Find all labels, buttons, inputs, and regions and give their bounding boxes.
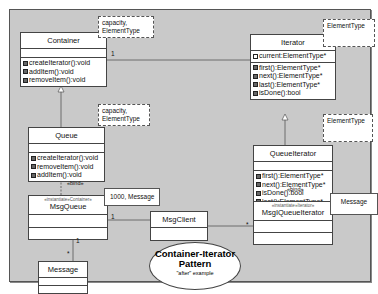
class-name: MsgQueue [50, 202, 87, 211]
class-name: Queue [29, 128, 104, 144]
method-icon [31, 156, 36, 161]
method-icon [256, 174, 261, 179]
bind-params-msgiterator: Message [330, 193, 378, 215]
attributes-section [151, 228, 207, 240]
attributes-section [29, 215, 107, 228]
diagram-canvas: Container createIterator():void addItem(… [9, 9, 371, 282]
operations-section: createIterator():void addItem():void rem… [21, 58, 106, 86]
operation: addItem():void [31, 171, 102, 180]
operations-section [39, 286, 87, 293]
operations-section: first():ElementType* next():ElementType*… [251, 63, 335, 99]
method-icon [256, 182, 261, 187]
class-name: MsgClient [151, 212, 207, 228]
template-params-queue: capacity, ElementType [98, 104, 150, 126]
class-name: MsgIQueueIterator [262, 208, 325, 217]
operations-section [254, 233, 332, 244]
attributes-section: current:ElementType* [251, 51, 335, 63]
operation: removeItem():void [23, 76, 104, 85]
method-icon [31, 173, 36, 178]
operation: first():ElementType* [253, 64, 333, 73]
bind-label-msgiterator: «bind» [287, 186, 304, 192]
method-icon [256, 191, 261, 196]
operations-section: createIterator():void removeItem():void … [29, 153, 104, 181]
class-msg-queue-iterator[interactable]: «instantiate»Iterator» MsgIQueueIterator [253, 201, 333, 245]
attribute: current:ElementType* [253, 52, 333, 61]
subtitle: "after" example [150, 270, 240, 276]
operation: first():ElementType* [256, 172, 330, 181]
class-msg-queue[interactable]: «instantiate»Container» MsgQueue [28, 195, 108, 240]
operation: createIterator():void [31, 154, 102, 163]
operation: addItem():void [23, 68, 104, 77]
method-icon [253, 65, 258, 70]
method-icon [253, 82, 258, 87]
operation: createIterator():void [23, 59, 104, 68]
attributes-section [254, 162, 332, 171]
operation: isDone():bool [253, 89, 333, 98]
operation: next():ElementType* [253, 72, 333, 81]
multiplicity-label: 1 [76, 237, 80, 244]
multiplicity-label: 1 [111, 213, 115, 220]
template-params-iterator: ElementType [323, 19, 375, 47]
attributes-section [21, 49, 106, 58]
class-queue-iterator[interactable]: QueueIterator first():ElementType* next(… [253, 145, 333, 208]
template-params-container: capacity, ElementType [98, 16, 154, 38]
multiplicity-label: * [246, 221, 249, 228]
multiplicity-label: * [67, 250, 70, 257]
class-name-block: «instantiate»Container» MsgQueue [29, 196, 107, 215]
class-container[interactable]: Container createIterator():void addItem(… [20, 32, 107, 87]
attributes-section [29, 144, 104, 153]
operation: removeItem():void [31, 163, 102, 172]
operations-section [29, 228, 107, 239]
multiplicity-label: 1 [111, 50, 115, 57]
class-msg-client[interactable]: MsgClient [150, 211, 208, 241]
method-icon [23, 61, 28, 66]
method-icon [23, 69, 28, 74]
method-icon [253, 74, 258, 79]
method-icon [253, 91, 258, 96]
attributes-section [39, 278, 87, 286]
method-icon [31, 164, 36, 169]
bind-label-msgqueue: «bind» [67, 180, 84, 186]
diagram-title: Container-Iterator Pattern "after" examp… [149, 242, 241, 290]
title-line-2: Pattern [150, 259, 240, 269]
class-message[interactable]: Message [38, 261, 88, 294]
class-name: Container [21, 33, 106, 49]
method-icon [23, 78, 28, 83]
class-name: Message [39, 262, 87, 278]
class-name: QueueIterator [254, 146, 332, 162]
attribute-icon [253, 54, 258, 59]
template-params-queue-iterator: ElementType [323, 114, 373, 142]
operation: last():ElementType* [253, 81, 333, 90]
attributes-section [254, 221, 332, 233]
class-name-block: «instantiate»Iterator» MsgIQueueIterator [254, 202, 332, 221]
bind-params-msgqueue: 1000, Message [104, 188, 160, 206]
class-queue[interactable]: Queue createIterator():void removeItem()… [28, 127, 105, 182]
